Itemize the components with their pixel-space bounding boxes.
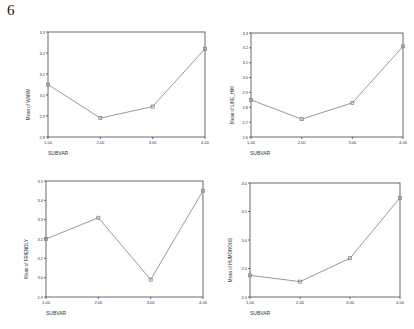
y-tick-label: 2.9 [39, 114, 45, 119]
x-tick-label: 3.00 [147, 300, 156, 305]
y-axis-label: Mean of FRIENDLY [24, 239, 29, 278]
line-chart-3: 2.93.03.13.23.33.43.51.002.003.004.00SUB… [24, 179, 208, 317]
y-tick-label: 3.3 [39, 30, 45, 35]
line-chart-4: 2.02.53.03.54.01.002.003.004.00SUBVARMea… [228, 181, 405, 317]
y-axis-label: Mean of HUMOROUS [228, 238, 233, 282]
y-tick-label: 2.9 [242, 90, 248, 95]
y-tick-label: 4.0 [241, 181, 247, 186]
y-tick-label: 3.0 [242, 75, 248, 80]
x-tick-label: 3.00 [348, 140, 357, 145]
x-tick-label: 2.00 [96, 140, 105, 145]
x-tick-label: 4.00 [396, 300, 405, 305]
plot-frame [250, 183, 400, 297]
x-axis-label: SUBVAR [250, 310, 271, 316]
y-tick-label: 3.1 [37, 256, 43, 261]
y-tick-label: 3.4 [37, 198, 43, 203]
plot-frame [48, 32, 205, 137]
x-tick-label: 1.00 [247, 140, 256, 145]
charts-canvas: 2.82.93.03.13.23.31.002.003.004.00SUBVAR… [0, 0, 414, 329]
y-tick-label: 3.0 [37, 275, 43, 280]
y-tick-label: 3.1 [39, 72, 45, 77]
y-tick-label: 3.0 [39, 93, 45, 98]
y-tick-label: 3.5 [241, 209, 247, 214]
y-tick-label: 2.8 [242, 105, 248, 110]
line-chart-2: 2.62.72.82.93.03.13.23.31.002.003.004.00… [230, 31, 408, 157]
x-axis-label: SUBVAR [46, 310, 67, 316]
y-tick-label: 3.3 [242, 31, 248, 36]
data-line [251, 46, 403, 119]
y-tick-label: 3.2 [39, 51, 45, 56]
data-line [46, 191, 203, 280]
y-tick-label: 3.2 [242, 45, 248, 50]
x-tick-label: 3.00 [149, 140, 158, 145]
y-tick-label: 2.5 [241, 266, 247, 271]
x-tick-label: 1.00 [44, 140, 53, 145]
x-axis-label: SUBVAR [48, 150, 69, 156]
data-line [250, 198, 400, 282]
x-tick-label: 2.00 [296, 300, 305, 305]
y-tick-label: 2.7 [242, 120, 248, 125]
data-line [48, 49, 205, 118]
x-tick-label: 2.00 [298, 140, 307, 145]
y-axis-label: Mean of LIKE_HIM [230, 86, 235, 124]
x-tick-label: 1.00 [246, 300, 255, 305]
x-tick-label: 4.00 [201, 140, 210, 145]
x-tick-label: 4.00 [199, 300, 208, 305]
y-tick-label: 3.0 [241, 238, 247, 243]
x-tick-label: 4.00 [399, 140, 408, 145]
x-tick-label: 3.00 [346, 300, 355, 305]
y-tick-label: 3.5 [37, 179, 43, 184]
x-axis-label: SUBVAR [250, 150, 271, 156]
y-axis-label: Mean of WARM [26, 88, 31, 120]
x-tick-label: 2.00 [94, 300, 103, 305]
plot-frame [251, 33, 403, 137]
x-tick-label: 1.00 [42, 300, 51, 305]
y-tick-label: 3.3 [37, 217, 43, 222]
line-chart-1: 2.82.93.03.13.23.31.002.003.004.00SUBVAR… [26, 30, 210, 157]
y-tick-label: 3.1 [242, 60, 248, 65]
plot-frame [46, 181, 203, 297]
y-tick-label: 3.2 [37, 237, 43, 242]
